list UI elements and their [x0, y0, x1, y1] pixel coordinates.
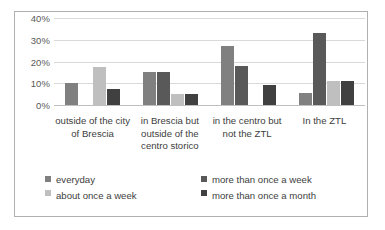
x-axis-label: in Brescia but outside of the centro sto…	[131, 115, 208, 164]
bar-group	[54, 12, 132, 105]
legend-swatch-icon	[45, 176, 51, 182]
y-tick-label: 10%	[31, 78, 50, 89]
legend-label: more than once a week	[212, 174, 312, 185]
x-axis-labels: outside of the city of Bresciain Brescia…	[54, 115, 363, 164]
y-tick-label: 0%	[36, 100, 50, 111]
legend-label: everyday	[56, 174, 95, 185]
y-tick-label: 40%	[31, 13, 50, 24]
chart-legend: everydaymore than once a weekabout once …	[45, 168, 357, 212]
y-tick-label: 30%	[31, 34, 50, 45]
bar	[235, 66, 248, 105]
x-axis-label: In the ZTL	[286, 115, 363, 164]
legend-item[interactable]: more than once a week	[201, 168, 357, 190]
legend-label: about once a week	[56, 190, 137, 201]
bar	[327, 81, 340, 105]
bar	[263, 85, 276, 105]
bar	[93, 67, 106, 105]
bar	[107, 89, 120, 105]
legend-swatch-icon	[45, 190, 51, 196]
legend-swatch-icon	[201, 176, 207, 182]
bar	[299, 93, 312, 105]
bar-groups	[54, 12, 365, 113]
bar	[313, 33, 326, 105]
legend-item[interactable]: about once a week	[45, 190, 201, 212]
x-axis-label: outside of the city of Brescia	[54, 115, 131, 164]
bar-group	[132, 12, 210, 105]
bar	[157, 72, 170, 105]
bar	[341, 81, 354, 105]
bar	[65, 83, 78, 105]
chart-container: 40%30%20%10%0% outside of the city of Br…	[14, 11, 368, 217]
legend-item[interactable]: everyday	[45, 168, 201, 190]
bar	[185, 94, 198, 105]
x-axis-label: in the centro but not the ZTL	[209, 115, 286, 164]
legend-label: more than once a month	[212, 190, 316, 201]
plot-area: 40%30%20%10%0%	[15, 12, 369, 113]
legend-item[interactable]: more than once a month	[201, 190, 357, 212]
plot-canvas	[54, 12, 365, 113]
legend-swatch-icon	[201, 190, 207, 196]
bar-group	[287, 12, 365, 105]
bar	[221, 46, 234, 105]
bar	[171, 94, 184, 105]
bar	[143, 72, 156, 105]
bar-group	[210, 12, 288, 105]
y-tick-label: 20%	[31, 56, 50, 67]
y-axis: 40%30%20%10%0%	[15, 12, 53, 113]
